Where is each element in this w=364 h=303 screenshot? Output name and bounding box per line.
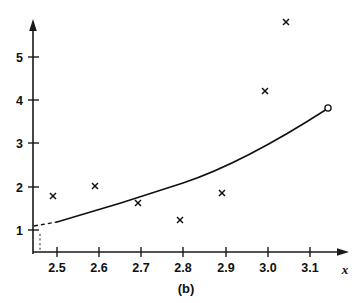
data-point-marker (177, 217, 183, 223)
x-axis-label: x (341, 262, 349, 277)
scatter-plot-figure: 5 4 3 2 1 2.5 2.6 2.7 2.8 2.9 (0, 0, 364, 303)
fitted-curve-dashed-segment (34, 222, 57, 226)
x-tick-label-2-6: 2.6 (90, 261, 107, 275)
x-tick-label-3-0: 3.0 (259, 261, 276, 275)
y-axis-arrow-icon (29, 19, 37, 31)
data-point-marker (262, 88, 268, 94)
data-point-marker (92, 183, 98, 189)
y-tick-label-2: 2 (16, 181, 23, 195)
x-axis (33, 248, 349, 256)
x-tick-label-3-1: 3.1 (301, 261, 318, 275)
data-point-marker (283, 19, 289, 25)
y-tick-label-1: 1 (16, 224, 23, 238)
data-point-marker (50, 193, 56, 199)
data-point-marker (135, 200, 141, 206)
fitted-curve (57, 109, 327, 222)
figure-caption: (b) (178, 281, 195, 296)
x-tick-label-2-8: 2.8 (174, 261, 191, 275)
y-axis (29, 19, 37, 254)
data-points (50, 19, 289, 223)
x-tick-label-2-9: 2.9 (217, 261, 234, 275)
x-axis-arrow-icon (337, 248, 349, 256)
x-axis-tick-labels: 2.5 2.6 2.7 2.8 2.9 3.0 3.1 (48, 261, 318, 275)
y-axis-tick-labels: 5 4 3 2 1 (16, 51, 23, 238)
plot-canvas: 5 4 3 2 1 2.5 2.6 2.7 2.8 2.9 (0, 0, 364, 303)
x-tick-label-2-5: 2.5 (48, 261, 65, 275)
data-point-marker (219, 190, 225, 196)
y-tick-label-4: 4 (16, 94, 23, 108)
curve-endpoint-marker (325, 105, 331, 111)
x-tick-label-2-7: 2.7 (132, 261, 149, 275)
y-tick-label-3: 3 (16, 137, 23, 151)
y-tick-label-5: 5 (16, 51, 23, 65)
